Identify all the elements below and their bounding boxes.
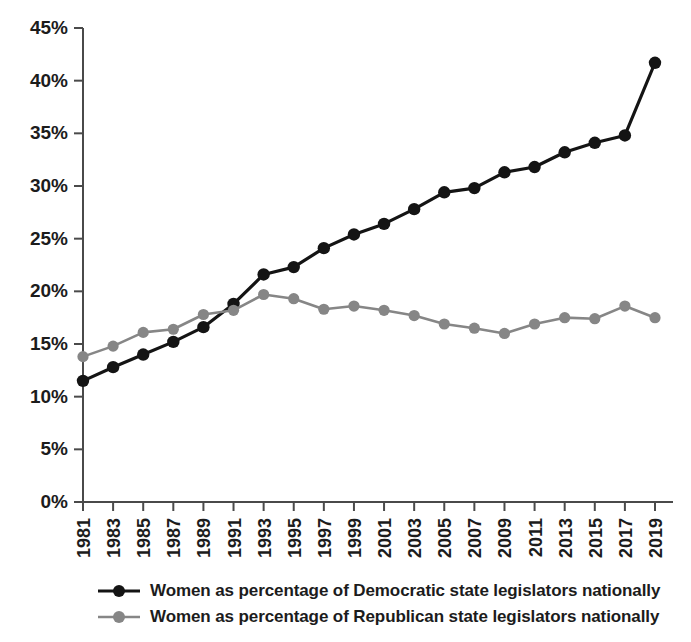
x-tick-label: 1983 bbox=[104, 518, 124, 558]
series-line bbox=[83, 63, 655, 381]
data-point bbox=[318, 304, 329, 315]
data-point bbox=[378, 305, 389, 316]
data-point bbox=[408, 203, 420, 215]
x-tick-label: 1995 bbox=[285, 518, 305, 558]
data-series-layer bbox=[77, 57, 661, 388]
data-point bbox=[619, 300, 630, 311]
x-tick-label: 1981 bbox=[74, 518, 94, 558]
x-tick-label: 2003 bbox=[405, 518, 425, 558]
y-tick-label: 25% bbox=[30, 228, 68, 249]
axis-lines bbox=[83, 28, 673, 502]
legend-label-republican: Women as percentage of Republican state … bbox=[150, 607, 659, 627]
data-point bbox=[499, 328, 510, 339]
data-point bbox=[228, 305, 239, 316]
data-point bbox=[107, 361, 119, 373]
data-point bbox=[137, 348, 149, 360]
legend-marker-republican-icon bbox=[96, 607, 142, 627]
legend-item-democratic: Women as percentage of Democratic state … bbox=[0, 578, 691, 604]
x-axis-ticks bbox=[83, 502, 655, 511]
data-point bbox=[528, 161, 540, 173]
x-tick-label: 2019 bbox=[646, 518, 666, 558]
data-point bbox=[439, 318, 450, 329]
y-axis-ticks bbox=[74, 28, 83, 502]
y-tick-label: 30% bbox=[30, 175, 68, 196]
series-republican bbox=[77, 289, 660, 362]
y-tick-label: 5% bbox=[41, 438, 69, 459]
data-point bbox=[77, 351, 88, 362]
x-axis-labels: 1981198319851987198919911993199519971999… bbox=[74, 518, 666, 558]
series-democratic bbox=[77, 57, 661, 388]
data-point bbox=[168, 324, 179, 335]
x-tick-label: 1989 bbox=[194, 518, 214, 558]
x-tick-label: 2005 bbox=[435, 518, 455, 558]
data-point bbox=[529, 318, 540, 329]
data-point bbox=[258, 289, 269, 300]
x-tick-label: 1993 bbox=[255, 518, 275, 558]
y-tick-label: 15% bbox=[30, 333, 68, 354]
y-tick-label: 40% bbox=[30, 70, 68, 91]
y-tick-label: 0% bbox=[41, 491, 69, 512]
data-point bbox=[558, 146, 570, 158]
data-point bbox=[348, 300, 359, 311]
x-tick-label: 1997 bbox=[315, 518, 335, 558]
line-chart-plot: 0%5%10%15%20%25%30%35%40%45% 19811983198… bbox=[0, 0, 691, 642]
data-point bbox=[559, 312, 570, 323]
series-line bbox=[83, 294, 655, 356]
x-tick-label: 1991 bbox=[225, 518, 245, 558]
data-point bbox=[619, 129, 631, 141]
chart-container: 0%5%10%15%20%25%30%35%40%45% 19811983198… bbox=[0, 0, 691, 642]
data-point bbox=[197, 321, 209, 333]
x-tick-label: 1985 bbox=[134, 518, 154, 558]
x-tick-label: 2001 bbox=[375, 518, 395, 558]
x-tick-label: 1999 bbox=[345, 518, 365, 558]
y-tick-label: 35% bbox=[30, 122, 68, 143]
data-point bbox=[257, 268, 269, 280]
data-point bbox=[77, 375, 89, 387]
data-point bbox=[108, 341, 119, 352]
data-point bbox=[348, 228, 360, 240]
legend-marker-democratic-icon bbox=[96, 581, 142, 601]
data-point bbox=[649, 312, 660, 323]
x-tick-label: 1987 bbox=[164, 518, 184, 558]
data-point bbox=[438, 186, 450, 198]
x-tick-label: 2007 bbox=[465, 518, 485, 558]
data-point bbox=[468, 182, 480, 194]
data-point bbox=[378, 218, 390, 230]
data-point bbox=[288, 293, 299, 304]
data-point bbox=[589, 313, 600, 324]
x-tick-label: 2011 bbox=[526, 518, 546, 557]
y-tick-label: 45% bbox=[30, 17, 68, 38]
data-point bbox=[498, 166, 510, 178]
data-point bbox=[409, 310, 420, 321]
data-point bbox=[167, 336, 179, 348]
data-point bbox=[649, 57, 661, 69]
data-point bbox=[589, 137, 601, 149]
data-point bbox=[198, 309, 209, 320]
data-point bbox=[288, 261, 300, 273]
x-tick-label: 2009 bbox=[495, 518, 515, 558]
data-point bbox=[318, 242, 330, 254]
chart-legend: Women as percentage of Democratic state … bbox=[0, 578, 691, 630]
data-point bbox=[469, 323, 480, 334]
legend-label-democratic: Women as percentage of Democratic state … bbox=[150, 581, 660, 601]
x-tick-label: 2013 bbox=[556, 518, 576, 558]
x-tick-label: 2015 bbox=[586, 518, 606, 558]
y-tick-label: 10% bbox=[30, 386, 68, 407]
y-tick-label: 20% bbox=[30, 280, 68, 301]
legend-item-republican: Women as percentage of Republican state … bbox=[0, 604, 691, 630]
data-point bbox=[138, 327, 149, 338]
x-tick-label: 2017 bbox=[616, 518, 636, 558]
y-axis-labels: 0%5%10%15%20%25%30%35%40%45% bbox=[30, 17, 68, 512]
